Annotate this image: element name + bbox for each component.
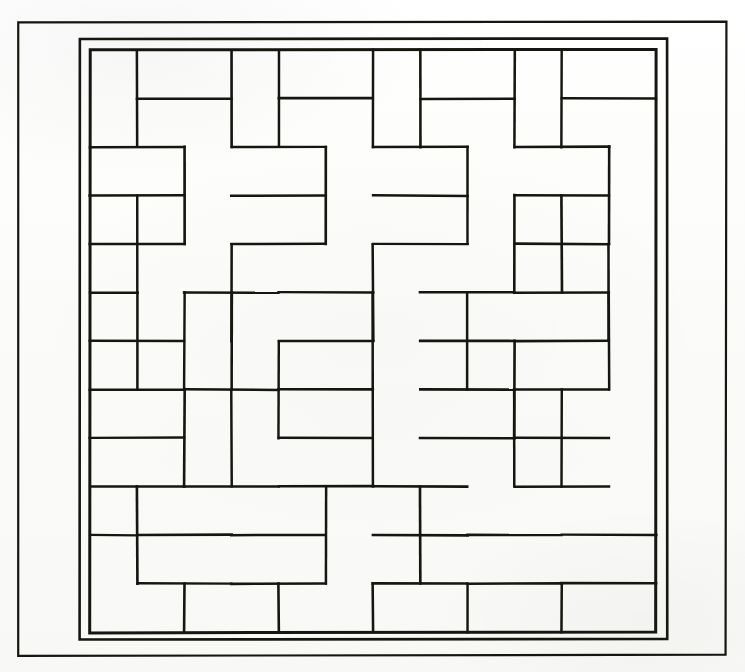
tiling-edges [90, 50, 657, 633]
brick-tiling-drawing [0, 0, 745, 672]
brick-edge-horizontal [90, 535, 137, 536]
brick-edge-vertical [184, 292, 185, 389]
brick-edge-vertical [561, 196, 562, 293]
figure-root: Brick tiling pattern figure [0, 0, 745, 672]
brick-edge-vertical [137, 486, 138, 583]
brick-edge-horizontal [373, 195, 467, 196]
brick-edge-vertical [184, 389, 185, 486]
